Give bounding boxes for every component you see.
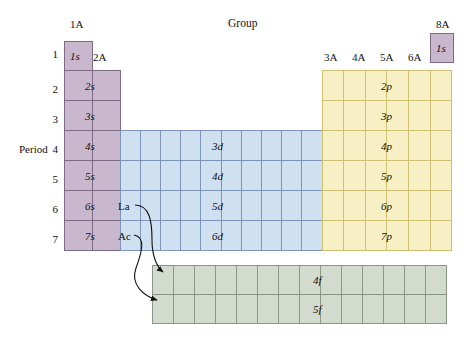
s-block-cell	[92, 100, 121, 131]
p-block-cell	[365, 100, 388, 131]
d-block-cell	[281, 190, 302, 221]
f-block-cell	[173, 265, 195, 295]
group-label-5a: 5A	[380, 52, 393, 63]
s-block-cell	[64, 160, 93, 191]
period-label-1: 1	[46, 49, 58, 60]
p-block-cell	[430, 160, 453, 191]
d-block-cell	[281, 220, 302, 251]
d-block-cell	[261, 160, 282, 191]
d-block-cell	[281, 130, 302, 161]
p-block-cell	[343, 220, 366, 251]
f-block-cell	[215, 265, 237, 295]
p-block-cell	[365, 130, 388, 161]
f-block-cell	[404, 294, 426, 324]
p-block-cell	[343, 130, 366, 161]
p-block-cell	[430, 190, 453, 221]
f-block-cell	[425, 294, 447, 324]
d-block-cell	[221, 190, 242, 221]
f-block-cell	[362, 265, 384, 295]
d-block-cell	[200, 160, 221, 191]
f-block-cell	[194, 265, 216, 295]
d-block-cell	[241, 160, 262, 191]
s-block-main	[64, 70, 120, 250]
p-block-cell	[408, 220, 431, 251]
p-block-cell	[365, 190, 388, 221]
lanthanide-label-la: La	[118, 200, 130, 212]
p-block-cell	[408, 70, 431, 101]
period-label-7: 7	[46, 234, 58, 245]
f-block-cell	[215, 294, 237, 324]
p-block-cell	[408, 100, 431, 131]
p-block-cell	[386, 160, 409, 191]
f-block-cell	[404, 265, 426, 295]
f-block-cell	[320, 294, 342, 324]
s-block-cell	[64, 130, 93, 161]
d-block-cell	[160, 220, 181, 251]
group-label-1a: 1A	[70, 19, 83, 30]
f-block-cell	[341, 294, 363, 324]
d-block-cell	[180, 160, 201, 191]
f-block-cell	[362, 294, 384, 324]
f-block-cell	[383, 265, 405, 295]
d-block-cell	[160, 160, 181, 191]
f-block	[152, 265, 446, 323]
f-block-cell	[152, 294, 174, 324]
d-block-cell	[200, 220, 221, 251]
group-label-2a: 2A	[93, 52, 106, 63]
p-block-cell	[386, 220, 409, 251]
d-block-cell	[221, 130, 242, 161]
s-block-cell	[64, 100, 93, 131]
f-block-cell	[278, 265, 300, 295]
p-block-cell	[430, 220, 453, 251]
f-block-cell	[320, 265, 342, 295]
d-block-cell	[120, 130, 141, 161]
s-block-cell	[92, 70, 121, 101]
s-block-period1	[64, 41, 92, 70]
f-block-cell	[236, 265, 258, 295]
s-block-cell	[92, 220, 121, 251]
s-block-cell	[64, 70, 93, 101]
period-label-2: 2	[46, 84, 58, 95]
period-label-5: 5	[46, 174, 58, 185]
period-label-4: 4	[46, 144, 58, 155]
s-block-cell	[92, 130, 121, 161]
period-label-6: 6	[46, 204, 58, 215]
p-block-cell	[386, 190, 409, 221]
p-block	[322, 70, 452, 250]
d-block-cell	[180, 190, 201, 221]
d-block-cell	[261, 130, 282, 161]
p-block-cell	[408, 190, 431, 221]
f-block-cell	[299, 294, 321, 324]
p-block-cell	[408, 130, 431, 161]
d-block	[120, 130, 322, 250]
f-block-cell	[383, 294, 405, 324]
f-block-cell	[257, 294, 279, 324]
d-block-cell	[241, 190, 262, 221]
f-block-cell	[173, 294, 195, 324]
s-block-cell	[92, 190, 121, 221]
d-block-cell	[140, 220, 161, 251]
group-label-3a: 3A	[324, 52, 337, 63]
d-block-cell	[241, 130, 262, 161]
group-label-6a: 6A	[408, 52, 421, 63]
p-block-cell	[322, 160, 345, 191]
p-block-cell	[343, 160, 366, 191]
p-block-cell	[386, 100, 409, 131]
p-block-cell	[322, 190, 345, 221]
p-block-cell	[365, 220, 388, 251]
d-block-cell	[160, 190, 181, 221]
d-block-cell	[281, 160, 302, 191]
d-block-cell	[301, 160, 322, 191]
group-label-8a: 8A	[436, 19, 449, 30]
p-block-cell	[430, 130, 453, 161]
p-block-cell	[386, 70, 409, 101]
f-block-cell	[341, 265, 363, 295]
d-block-cell	[241, 220, 262, 251]
s-block-cell	[64, 190, 93, 221]
group-title: Group	[228, 18, 257, 29]
s-block-cell	[64, 220, 93, 251]
p-block-cell	[322, 70, 345, 101]
helium-cell	[430, 33, 454, 63]
p-block-cell	[430, 100, 453, 131]
d-block-cell	[301, 190, 322, 221]
